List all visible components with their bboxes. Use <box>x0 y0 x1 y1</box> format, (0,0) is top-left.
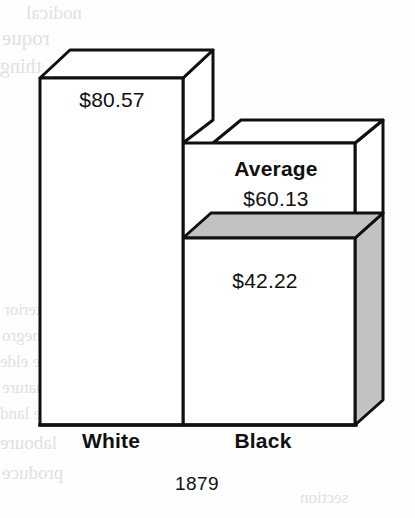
white-bar-front-face <box>40 78 183 425</box>
white-bar-top-face <box>40 50 213 78</box>
black-bar-front-face <box>183 238 355 425</box>
average-title-label: Average <box>234 157 318 180</box>
category-label-black: Black <box>234 429 291 452</box>
category-label-white: White <box>82 429 140 452</box>
chart-canvas: $80.57 Average $60.13 $42.22 White Black… <box>0 0 415 518</box>
black-bar-top-face-average <box>213 120 383 143</box>
white-bar-value-label: $80.57 <box>79 88 144 111</box>
black-bar-top-face-shaded <box>183 213 383 238</box>
average-value-label: $60.13 <box>243 187 308 210</box>
black-bar-value-label: $42.22 <box>232 269 297 292</box>
black-bar-right-side-shaded <box>355 213 383 425</box>
bar-chart-figure: nodical roque thing interior negro the e… <box>0 0 415 518</box>
axis-label-year: 1879 <box>175 473 219 494</box>
